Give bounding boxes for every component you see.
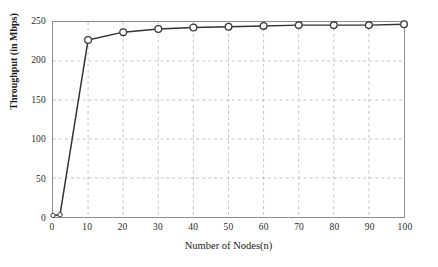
x-tick-label: 0 xyxy=(50,222,55,232)
data-point-marker xyxy=(260,23,267,30)
y-tick-label: 0 xyxy=(41,213,46,223)
data-point-marker xyxy=(295,22,302,29)
data-point-marker xyxy=(51,213,55,217)
data-point-marker xyxy=(155,26,162,33)
plot-area xyxy=(52,21,405,218)
data-point-marker xyxy=(401,21,408,28)
x-tick-label: 90 xyxy=(365,222,375,232)
x-tick-label: 10 xyxy=(82,222,92,232)
data-point-marker xyxy=(366,22,373,29)
data-point-marker xyxy=(190,24,197,31)
x-axis-tick-labels: 0102030405060708090100 xyxy=(52,222,405,236)
x-tick-label: 20 xyxy=(118,222,128,232)
data-point-marker xyxy=(330,22,337,29)
y-axis-title: Throughput (in Mbps) xyxy=(8,0,19,127)
y-tick-label: 50 xyxy=(36,174,46,184)
y-tick-label: 250 xyxy=(31,16,46,26)
x-tick-label: 50 xyxy=(224,222,234,232)
y-tick-label: 150 xyxy=(31,95,46,105)
throughput-vs-nodes-chart: 050100150200250 0102030405060708090100 N… xyxy=(0,0,438,267)
data-series-layer xyxy=(53,22,404,217)
x-tick-label: 30 xyxy=(153,222,163,232)
data-point-marker xyxy=(85,37,92,44)
y-tick-label: 100 xyxy=(31,134,46,144)
y-tick-label: 200 xyxy=(31,55,46,65)
x-tick-label: 60 xyxy=(259,222,269,232)
x-axis-title: Number of Nodes(n) xyxy=(52,240,405,251)
x-tick-label: 100 xyxy=(398,222,413,232)
series-line xyxy=(53,24,404,215)
data-point-marker xyxy=(120,29,127,36)
x-tick-label: 70 xyxy=(294,222,304,232)
x-tick-label: 80 xyxy=(329,222,339,232)
data-point-marker xyxy=(225,23,232,30)
data-point-marker xyxy=(58,212,62,216)
x-tick-label: 40 xyxy=(188,222,198,232)
